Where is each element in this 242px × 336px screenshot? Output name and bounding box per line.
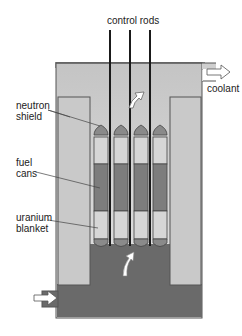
label-neutron-shield-line2: shield	[16, 111, 42, 122]
neutron-shield-left	[58, 97, 90, 285]
label-uranium-blanket-line1: uranium	[16, 212, 52, 223]
label-coolant: coolant	[207, 83, 239, 94]
label-control-rods: control rods	[107, 15, 159, 26]
fuel-can	[94, 125, 108, 247]
neutron-shield-right	[170, 97, 201, 285]
label-fuel-cans-line2: cans	[16, 168, 37, 179]
label-uranium-blanket-line2: blanket	[16, 223, 48, 234]
fuel-can	[153, 125, 167, 247]
fuel-can	[134, 125, 148, 247]
label-fuel-cans-line1: fuel	[16, 157, 32, 168]
label-neutron-shield-line1: neutron	[16, 100, 50, 111]
fuel-can	[114, 125, 128, 247]
